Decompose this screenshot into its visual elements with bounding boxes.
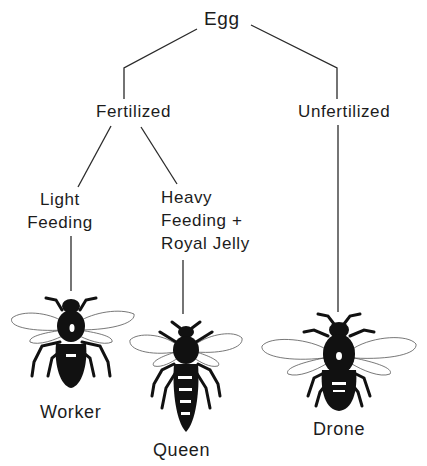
- node-queen: Queen: [153, 439, 210, 461]
- edge-fertilized-heavy: [141, 127, 177, 184]
- node-light-feeding: Light Feeding: [18, 188, 102, 234]
- caste-diagram: Egg Fertilized Unfertilized Light Feedin…: [0, 0, 427, 466]
- drone-bee-icon: [258, 312, 420, 412]
- node-drone: Drone: [313, 418, 365, 440]
- edge-egg-fertilized: [124, 29, 197, 99]
- node-egg: Egg: [204, 8, 240, 30]
- edge-egg-unfertilized: [251, 25, 337, 99]
- node-heavy-feeding: Heavy Feeding + Royal Jelly: [161, 186, 250, 255]
- worker-bee-icon: [8, 292, 138, 392]
- node-worker: Worker: [40, 401, 101, 423]
- node-unfertilized: Unfertilized: [298, 101, 390, 123]
- queen-bee-icon: [126, 318, 246, 434]
- node-fertilized: Fertilized: [96, 101, 171, 123]
- edge-fertilized-light: [78, 126, 111, 187]
